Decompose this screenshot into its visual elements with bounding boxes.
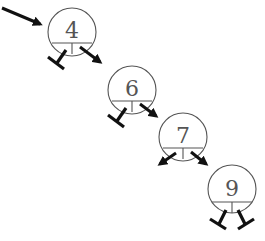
node-label-6: 6 <box>125 76 139 101</box>
node-7-right-pointer-arrow <box>191 152 206 164</box>
bst-diagram: 4 6 7 9 <box>0 0 265 241</box>
tree-node-4: 4 <box>48 8 96 56</box>
node-label-7: 7 <box>176 123 190 148</box>
node-label-4: 4 <box>65 18 79 43</box>
node-6-left-null-icon <box>108 108 126 127</box>
node-4-left-null-icon <box>48 50 66 69</box>
node-6-right-pointer-arrow <box>140 104 156 116</box>
root-pointer-arrow <box>2 8 40 24</box>
node-label-9: 9 <box>225 176 239 201</box>
tree-node-6: 6 <box>108 66 156 114</box>
tree-node-9: 9 <box>208 165 256 213</box>
node-9-left-null-icon <box>210 210 226 229</box>
tree-node-7: 7 <box>159 113 207 161</box>
node-4-right-pointer-arrow <box>80 47 100 62</box>
node-9-right-null-icon <box>238 210 254 229</box>
